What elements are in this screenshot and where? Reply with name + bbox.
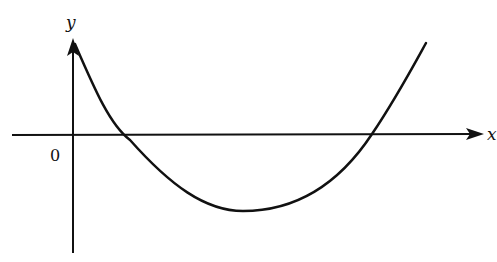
graph-canvas: y x 0 — [0, 0, 497, 262]
y-axis-label: y — [65, 12, 76, 32]
parabola-curve — [75, 43, 426, 211]
x-axis — [12, 128, 484, 140]
x-axis-label: x — [487, 124, 497, 144]
origin-label: 0 — [50, 146, 60, 165]
y-axis — [67, 38, 79, 253]
